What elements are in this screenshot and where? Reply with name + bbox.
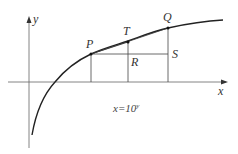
y-axis-label: y — [32, 12, 39, 26]
label-R: R — [130, 55, 139, 69]
equation-exponent: y — [135, 102, 140, 110]
label-P: P — [85, 37, 94, 51]
label-S: S — [172, 47, 178, 61]
log-curve-diagram: P T Q R S y x x=10y — [0, 0, 238, 154]
point-Q — [167, 27, 170, 30]
y-axis-arrow-icon — [27, 16, 32, 23]
label-T: T — [123, 24, 131, 38]
point-P — [90, 53, 93, 56]
label-Q: Q — [163, 10, 172, 24]
equation-base: x=10 — [112, 102, 137, 114]
chord-PT — [91, 42, 128, 54]
point-T — [127, 41, 130, 44]
equation-label: x=10y — [112, 102, 140, 114]
x-axis-label: x — [217, 84, 224, 98]
